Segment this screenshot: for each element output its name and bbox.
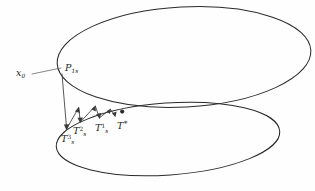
arrow-t2-up — [80, 108, 94, 122]
label-tstar: T* — [117, 120, 127, 131]
label-x0: x0 — [16, 68, 25, 80]
lower-ellipse — [54, 95, 282, 182]
label-t2s: T2s — [73, 126, 86, 138]
figure-container: x0 P1s T3s T2s T1s T* — [0, 0, 315, 191]
label-tstar-star: * — [123, 119, 127, 128]
upper-ellipse — [55, 0, 314, 113]
arrow-p-to-t3 — [62, 74, 66, 126]
leader-line-x0 — [32, 68, 61, 74]
label-p1s-sub: 1s — [71, 68, 78, 74]
fixed-point-dot — [120, 110, 124, 114]
label-t3s-sub: s — [71, 139, 74, 145]
label-x0-sub: 0 — [21, 73, 25, 79]
label-t1s-sub: s — [105, 128, 108, 134]
diagram-canvas — [0, 0, 315, 191]
label-p1s: P1s — [65, 63, 78, 75]
label-t2s-sub: s — [83, 131, 86, 137]
label-t1s: T1s — [95, 123, 108, 135]
